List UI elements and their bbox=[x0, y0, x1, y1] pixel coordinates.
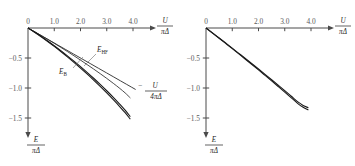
asymptote-numerator: U bbox=[152, 82, 158, 90]
y-axis-arrowhead bbox=[203, 132, 208, 138]
x-axis-tick-labels: 01.02.03.04.0 bbox=[26, 17, 138, 26]
x-axis-label-denominator: πΔ bbox=[161, 28, 169, 36]
y-tick-label: −1.5 bbox=[187, 114, 201, 123]
x-axis-label-denominator: πΔ bbox=[339, 28, 347, 36]
physics-figure: 01.02.03.04.0 −0.5−1.0−1.5 U πΔ E πΔ bbox=[0, 0, 355, 166]
y-tick-label: −0.5 bbox=[187, 54, 201, 63]
x-tick-label: 1.0 bbox=[228, 17, 238, 26]
y-tick-label: −1.0 bbox=[187, 84, 201, 93]
left-axes: 01.02.03.04.0 −0.5−1.0−1.5 bbox=[9, 17, 156, 139]
y-axis-label-denominator: πΔ bbox=[210, 147, 218, 155]
x-tick-label: 2.0 bbox=[254, 17, 264, 26]
asymptote-minus-sign: − bbox=[138, 82, 142, 90]
left-curves bbox=[28, 28, 136, 119]
x-tick-label: 3.0 bbox=[102, 17, 112, 26]
x-axis-label: U πΔ bbox=[335, 17, 351, 36]
x-tick-label: 0 bbox=[204, 17, 208, 26]
asymptote-annotation: − U 4πΔ bbox=[138, 82, 167, 101]
chart-panel-right: 01.02.03.04.0 −0.5−1.0−1.5 U πΔ E πΔ bbox=[178, 0, 355, 166]
x-tick-label: 4.0 bbox=[306, 17, 316, 26]
left-plot-svg: 01.02.03.04.0 −0.5−1.0−1.5 U πΔ E πΔ bbox=[0, 0, 177, 166]
asymptote-denominator: 4πΔ bbox=[150, 93, 161, 101]
x-tick-label: 2.0 bbox=[76, 17, 86, 26]
y-axis-tick-labels: −0.5−1.0−1.5 bbox=[187, 54, 201, 123]
x-tick-label: 0 bbox=[26, 17, 30, 26]
exact-energy-curve-secondary bbox=[28, 28, 130, 119]
y-tick-label: −1.0 bbox=[9, 84, 23, 93]
y-axis-arrowhead bbox=[25, 132, 30, 138]
x-axis-arrowhead bbox=[150, 25, 156, 30]
hf-annotation-label: EHF bbox=[96, 46, 108, 55]
exact-annotation-label: EB bbox=[58, 68, 67, 77]
y-axis-label-numerator: E bbox=[33, 136, 39, 144]
x-axis-label: U πΔ bbox=[157, 17, 173, 36]
y-axis-label: E πΔ bbox=[205, 136, 223, 155]
y-axis-label-numerator: E bbox=[211, 136, 217, 144]
right-axes: 01.02.03.04.0 −0.5−1.0−1.5 bbox=[187, 17, 334, 139]
y-axis-label: E πΔ bbox=[27, 136, 45, 155]
x-tick-label: 4.0 bbox=[128, 17, 138, 26]
chart-panel-left: 01.02.03.04.0 −0.5−1.0−1.5 U πΔ E πΔ bbox=[0, 0, 177, 166]
hf-leader-line bbox=[84, 54, 96, 66]
x-axis-label-numerator: U bbox=[340, 17, 346, 25]
x-axis-arrowhead bbox=[328, 25, 334, 30]
exact-energy-curve bbox=[28, 28, 130, 117]
y-tick-label: −0.5 bbox=[9, 54, 23, 63]
hf-annotation: EHF bbox=[84, 46, 108, 66]
x-axis-label-numerator: U bbox=[162, 17, 168, 25]
y-axis-tick-labels: −0.5−1.0−1.5 bbox=[9, 54, 23, 123]
x-axis-tick-labels: 01.02.03.04.0 bbox=[204, 17, 316, 26]
y-axis-label-denominator: πΔ bbox=[32, 147, 40, 155]
x-tick-label: 1.0 bbox=[50, 17, 60, 26]
y-tick-label: −1.5 bbox=[9, 114, 23, 123]
right-plot-svg: 01.02.03.04.0 −0.5−1.0−1.5 U πΔ E πΔ bbox=[178, 0, 355, 166]
x-tick-label: 3.0 bbox=[280, 17, 290, 26]
right-curves bbox=[206, 28, 308, 110]
